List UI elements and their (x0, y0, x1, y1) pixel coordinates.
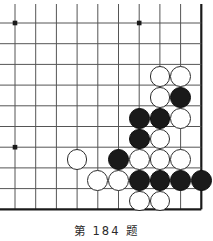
stone-layer (0, 0, 213, 220)
black-stone[interactable] (129, 108, 150, 129)
black-stone[interactable] (191, 170, 212, 191)
white-stone[interactable] (170, 149, 191, 170)
black-stone[interactable] (170, 87, 191, 108)
white-stone[interactable] (150, 66, 171, 87)
black-stone[interactable] (129, 170, 150, 191)
white-stone[interactable] (129, 149, 150, 170)
go-problem-figure: 第 184 题 (0, 0, 213, 241)
white-stone[interactable] (150, 87, 171, 108)
white-stone[interactable] (108, 170, 129, 191)
white-stone[interactable] (170, 108, 191, 129)
black-stone[interactable] (170, 170, 191, 191)
black-stone[interactable] (129, 129, 150, 150)
white-stone[interactable] (150, 129, 171, 150)
white-stone[interactable] (129, 191, 150, 212)
white-stone[interactable] (67, 149, 88, 170)
black-stone[interactable] (150, 170, 171, 191)
black-stone[interactable] (108, 149, 129, 170)
black-stone[interactable] (150, 108, 171, 129)
white-stone[interactable] (150, 149, 171, 170)
go-board[interactable] (0, 0, 213, 220)
figure-caption: 第 184 题 (0, 224, 213, 241)
white-stone[interactable] (150, 191, 171, 212)
white-stone[interactable] (170, 66, 191, 87)
white-stone[interactable] (87, 170, 108, 191)
